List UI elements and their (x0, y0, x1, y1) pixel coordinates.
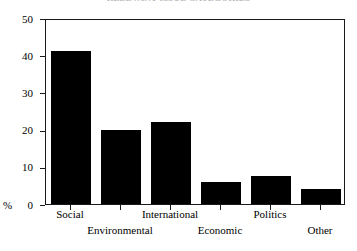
y-axis-tick-mark (40, 205, 45, 206)
x-axis-tick-label: Politics (253, 208, 286, 220)
bar (201, 182, 241, 204)
y-axis-tick-label: 0 (28, 200, 34, 211)
x-axis-tick-label: Environmental (87, 224, 152, 236)
x-axis-tick-mark (320, 205, 321, 210)
x-axis-tick-mark (120, 205, 121, 210)
x-axis-tick-label: Social (56, 208, 84, 220)
bar-chart-figure: RELEVANT ISSUE CATEGORIES % 01020304050 … (0, 0, 357, 251)
y-axis: % 01020304050 (0, 0, 45, 251)
x-axis-tick-label: Economic (198, 224, 243, 236)
bar (51, 51, 91, 204)
y-axis-tick-label: 30 (22, 88, 33, 99)
y-axis-tick-label: 20 (22, 125, 33, 136)
bar (251, 176, 291, 204)
plot-area (46, 20, 344, 204)
y-axis-tick-label: 10 (22, 162, 33, 173)
chart-title: RELEVANT ISSUE CATEGORIES (0, 0, 357, 1)
bar (101, 130, 141, 204)
x-axis-tick-label: Other (307, 224, 332, 236)
x-axis-tick-mark (220, 205, 221, 210)
bar (151, 122, 191, 204)
plot-frame (45, 19, 345, 205)
y-axis-tick-label: 40 (22, 51, 33, 62)
x-axis-tick-label: International (142, 208, 198, 220)
y-axis-tick-label: 50 (22, 14, 33, 25)
bar (301, 189, 341, 204)
y-axis-unit-label: % (3, 200, 12, 211)
